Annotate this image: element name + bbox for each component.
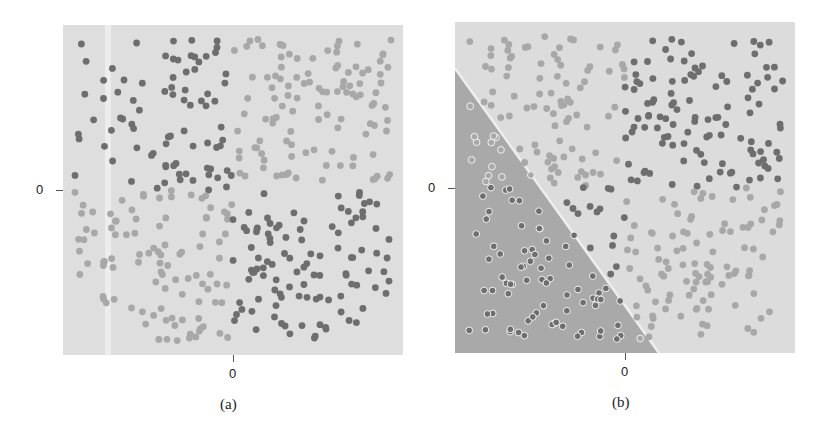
point-dark: [745, 94, 752, 101]
point-light: [704, 322, 711, 329]
point-light: [110, 264, 117, 271]
point-dark: [329, 223, 336, 230]
point-light: [222, 231, 229, 238]
point-light: [521, 159, 528, 166]
point-dark: [705, 116, 712, 123]
point-light: [706, 231, 713, 238]
point-light: [193, 272, 200, 279]
point-dark: [233, 311, 240, 318]
point-dark: [483, 216, 490, 223]
point-light: [662, 306, 669, 313]
point-light: [196, 298, 203, 305]
point-light: [107, 210, 114, 217]
point-dark: [230, 216, 237, 223]
point-light: [776, 222, 783, 229]
point-light: [123, 231, 130, 238]
point-dark: [161, 179, 168, 186]
point-dark: [521, 247, 528, 254]
point-light: [150, 312, 157, 319]
point-dark: [373, 201, 380, 208]
point-light: [503, 73, 510, 80]
point-dark: [645, 113, 652, 120]
point-light: [155, 336, 162, 343]
point-light: [188, 192, 195, 199]
point-light: [665, 265, 672, 272]
point-light: [356, 80, 363, 87]
point-light: [255, 36, 262, 43]
point-light: [546, 152, 553, 159]
point-dark: [486, 256, 493, 263]
point-dark: [748, 138, 755, 145]
point-dark: [490, 243, 497, 250]
point-dark: [301, 218, 308, 225]
point-dark: [605, 185, 612, 192]
point-dark: [654, 125, 661, 132]
point-dark: [282, 323, 289, 330]
point-light: [277, 41, 284, 48]
point-dark: [756, 101, 763, 108]
point-dark: [297, 226, 304, 233]
point-dark: [693, 147, 700, 154]
point-dark: [773, 149, 780, 156]
point-dark: [669, 78, 676, 85]
point-dark: [580, 299, 587, 306]
point-dark: [634, 178, 641, 185]
point-dark: [313, 296, 320, 303]
point-dark: [482, 326, 489, 333]
point-dark: [564, 199, 571, 206]
point-dark: [691, 118, 698, 125]
point-light: [626, 265, 633, 272]
point-dark: [615, 322, 622, 329]
point-dark: [349, 254, 356, 261]
point-light: [466, 38, 473, 45]
point-light: [84, 260, 91, 267]
point-light: [112, 218, 119, 225]
point-dark: [713, 83, 720, 90]
point-dark: [338, 309, 345, 316]
point-light: [750, 290, 757, 297]
point-light: [528, 172, 535, 179]
point-light: [637, 275, 644, 282]
point-dark: [587, 245, 594, 252]
point-dark: [224, 167, 231, 174]
point-light: [499, 174, 506, 181]
point-dark: [766, 39, 773, 46]
y-tick-label-b: 0: [428, 180, 435, 195]
point-light: [224, 334, 231, 341]
point-light: [771, 202, 778, 209]
x-tick-zero-b: [625, 353, 626, 360]
point-light: [508, 53, 515, 60]
point-light: [156, 223, 163, 230]
point-light: [646, 333, 653, 340]
point-light: [285, 92, 292, 99]
point-light: [157, 260, 164, 267]
point-dark: [754, 80, 761, 87]
point-dark: [719, 160, 726, 167]
point-dark: [507, 281, 514, 288]
point-dark: [724, 103, 731, 110]
point-light: [158, 305, 165, 312]
point-light: [483, 178, 490, 185]
point-light: [693, 279, 700, 286]
point-dark: [484, 311, 491, 318]
point-light: [505, 41, 512, 48]
point-dark: [625, 161, 632, 168]
point-light: [78, 210, 85, 217]
point-light: [555, 169, 562, 176]
point-dark: [255, 255, 262, 262]
point-light: [101, 258, 108, 265]
point-dark: [661, 134, 668, 141]
point-dark: [360, 305, 367, 312]
point-light: [766, 308, 773, 315]
point-dark: [317, 252, 324, 259]
point-light: [613, 157, 620, 164]
point-dark: [480, 193, 487, 200]
point-light: [288, 153, 295, 160]
point-light: [350, 154, 357, 161]
point-dark: [359, 213, 366, 220]
point-light: [285, 83, 292, 90]
point-light: [243, 43, 250, 50]
point-light: [547, 175, 554, 182]
point-dark: [681, 77, 688, 84]
point-dark: [727, 170, 734, 177]
